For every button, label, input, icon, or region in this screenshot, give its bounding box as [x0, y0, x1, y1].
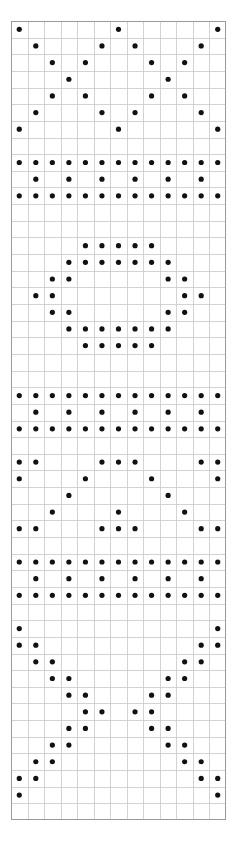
pattern-dot — [99, 193, 104, 198]
pattern-dot — [33, 410, 38, 415]
pattern-dot — [33, 460, 38, 465]
pattern-dot — [66, 426, 71, 431]
pattern-dot — [182, 393, 187, 398]
pattern-dot — [149, 343, 154, 348]
pattern-dot — [182, 93, 187, 98]
pattern-dot — [149, 60, 154, 65]
pattern-dot — [99, 426, 104, 431]
pattern-dot — [66, 193, 71, 198]
pattern-dot — [199, 410, 204, 415]
pattern-dot — [182, 509, 187, 514]
dot-pattern-grid — [11, 21, 226, 820]
pattern-dot — [132, 593, 137, 598]
pattern-dot — [83, 343, 88, 348]
pattern-dot — [132, 43, 137, 48]
pattern-dot — [166, 593, 171, 598]
pattern-dot — [33, 659, 38, 664]
pattern-dot — [166, 326, 171, 331]
pattern-dot — [83, 93, 88, 98]
pattern-dot — [149, 326, 154, 331]
pattern-dot — [116, 559, 121, 564]
pattern-dot — [116, 593, 121, 598]
pattern-dot — [132, 709, 137, 714]
pattern-dot — [50, 426, 55, 431]
pattern-dot — [66, 742, 71, 747]
pattern-dot — [33, 593, 38, 598]
pattern-dot — [50, 659, 55, 664]
pattern-dot — [149, 243, 154, 248]
pattern-dot — [166, 676, 171, 681]
pattern-dot — [66, 393, 71, 398]
pattern-dot — [66, 593, 71, 598]
pattern-dot — [99, 410, 104, 415]
pattern-dot — [17, 792, 22, 797]
pattern-dot — [182, 310, 187, 315]
pattern-dot — [149, 426, 154, 431]
pattern-dot — [199, 393, 204, 398]
pattern-dot — [199, 643, 204, 648]
pattern-dot — [215, 193, 220, 198]
pattern-dot — [199, 426, 204, 431]
pattern-dot — [132, 326, 137, 331]
pattern-dot — [99, 326, 104, 331]
pattern-dot — [17, 460, 22, 465]
pattern-dot — [166, 160, 171, 165]
pattern-dot — [215, 593, 220, 598]
pattern-dot — [215, 476, 220, 481]
pattern-dot — [182, 60, 187, 65]
pattern-dot — [17, 476, 22, 481]
pattern-dot — [17, 160, 22, 165]
pattern-dot — [50, 160, 55, 165]
pattern-dot — [50, 276, 55, 281]
pattern-dot — [116, 243, 121, 248]
pattern-dot — [99, 460, 104, 465]
pattern-dot — [66, 676, 71, 681]
pattern-dot — [83, 260, 88, 265]
pattern-dot — [215, 393, 220, 398]
pattern-dot — [66, 576, 71, 581]
pattern-dot — [166, 742, 171, 747]
pattern-dot — [66, 493, 71, 498]
pattern-dot — [66, 559, 71, 564]
pattern-dot — [50, 60, 55, 65]
pattern-dot — [215, 127, 220, 132]
pattern-dot — [132, 177, 137, 182]
pattern-dot — [17, 526, 22, 531]
pattern-dot — [215, 460, 220, 465]
dot-pattern-canvas — [11, 21, 226, 820]
pattern-dot — [215, 559, 220, 564]
pattern-dot — [182, 759, 187, 764]
pattern-dot — [116, 160, 121, 165]
pattern-dot — [149, 709, 154, 714]
pattern-dot — [33, 193, 38, 198]
pattern-dot — [182, 276, 187, 281]
pattern-dot — [215, 426, 220, 431]
pattern-dot — [149, 93, 154, 98]
pattern-dot — [50, 759, 55, 764]
pattern-dot — [166, 426, 171, 431]
pattern-dot — [182, 593, 187, 598]
pattern-dot — [132, 526, 137, 531]
pattern-dot — [99, 593, 104, 598]
pattern-dot — [66, 276, 71, 281]
pattern-dot — [199, 460, 204, 465]
pattern-dot — [166, 693, 171, 698]
pattern-dot — [166, 410, 171, 415]
pattern-dot — [66, 160, 71, 165]
pattern-dot — [215, 792, 220, 797]
pattern-dot — [182, 742, 187, 747]
pattern-dot — [166, 260, 171, 265]
pattern-dot — [215, 526, 220, 531]
pattern-dot — [66, 326, 71, 331]
pattern-dot — [199, 43, 204, 48]
pattern-dot — [50, 193, 55, 198]
pattern-dot — [50, 676, 55, 681]
pattern-dot — [33, 559, 38, 564]
pattern-dot — [83, 709, 88, 714]
pattern-dot — [66, 726, 71, 731]
pattern-dot — [132, 410, 137, 415]
pattern-dot — [66, 260, 71, 265]
pattern-dot — [83, 593, 88, 598]
pattern-dot — [17, 626, 22, 631]
pattern-dot — [99, 110, 104, 115]
